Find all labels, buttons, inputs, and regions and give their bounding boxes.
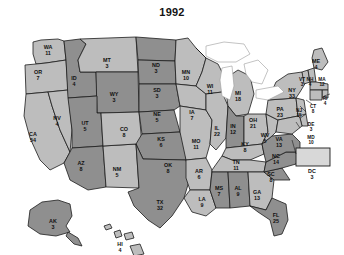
state-shape-RI[interactable] xyxy=(322,90,328,98)
state-shape-KS[interactable] xyxy=(139,110,180,134)
dc-callout-box[interactable] xyxy=(296,148,330,166)
hi-island-2 xyxy=(114,230,122,238)
state-shape-MA[interactable] xyxy=(310,82,328,90)
map-canvas: WA11OR7CA54NV4ID4MT3WY3UT5AZ8NM5CO8ND3SD… xyxy=(0,20,344,255)
page-title: 1992 xyxy=(0,6,344,18)
us-map-svg xyxy=(0,20,344,255)
state-shape-HI[interactable] xyxy=(104,224,112,230)
state-shape-WY[interactable] xyxy=(96,72,139,113)
state-shape-MT[interactable] xyxy=(78,37,138,72)
ct-leader-line xyxy=(306,100,312,104)
state-shape-CO[interactable] xyxy=(101,112,142,146)
lake-superior xyxy=(206,42,250,62)
state-shape-CT[interactable] xyxy=(310,90,322,100)
hi-island-4 xyxy=(130,244,144,255)
electoral-map-page: 1992 xyxy=(0,0,344,255)
state-shape-NE[interactable] xyxy=(139,84,180,112)
state-shape-AZ[interactable] xyxy=(64,146,106,190)
state-shape-AK[interactable] xyxy=(28,200,72,236)
hi-island-3 xyxy=(124,232,134,240)
state-shape-OR[interactable] xyxy=(25,60,68,94)
state-shape-ND[interactable] xyxy=(136,37,176,61)
state-shape-NM[interactable] xyxy=(103,144,139,188)
state-shape-SD[interactable] xyxy=(138,60,176,84)
state-shape-AR[interactable] xyxy=(186,158,212,190)
state-shape-OK[interactable] xyxy=(136,132,186,160)
state-shape-WA[interactable] xyxy=(33,39,66,64)
state-shape-AL[interactable] xyxy=(228,172,250,208)
ak-aleutian-tail xyxy=(66,232,82,246)
state-shape-ME[interactable] xyxy=(312,48,328,70)
state-shape-MO[interactable] xyxy=(180,106,212,160)
